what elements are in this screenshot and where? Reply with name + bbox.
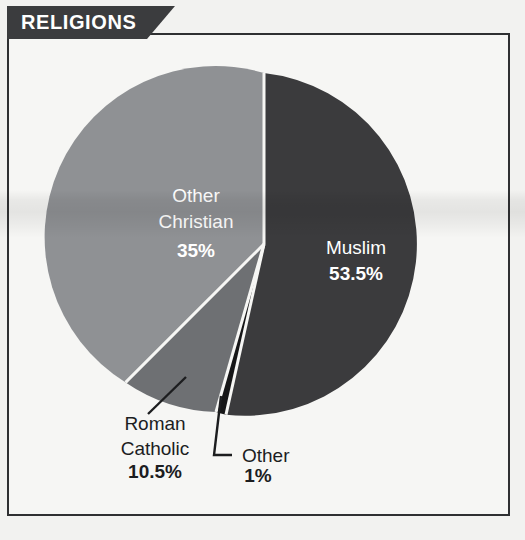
slice-label-other-christian-name-line2: Christian: [159, 211, 234, 232]
slice-label-other-christian-name-line1: Other: [172, 185, 220, 206]
slice-label-roman-catholic-name-line1: Roman: [124, 413, 185, 434]
slice-label-muslim-name: Muslim: [326, 237, 386, 258]
pie-chart: Muslim 53.5% Other Christian 35% Roman C…: [0, 0, 525, 540]
slice-label-roman-catholic-value: 10.5%: [128, 461, 182, 482]
slice-label-other-christian-value: 35%: [177, 240, 215, 261]
slice-label-muslim-value: 53.5%: [329, 263, 383, 284]
slice-label-roman-catholic-name-line2: Catholic: [121, 438, 190, 459]
section-banner: RELIGIONS: [7, 6, 177, 39]
slice-label-other-value: 1%: [244, 465, 272, 486]
slice-label-other-name: Other: [242, 445, 290, 466]
section-title: RELIGIONS: [21, 6, 136, 39]
religions-chart-page: Muslim 53.5% Other Christian 35% Roman C…: [0, 0, 525, 540]
